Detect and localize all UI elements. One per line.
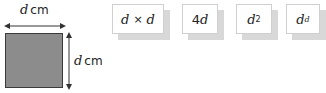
width-label: dcm xyxy=(20,2,49,17)
height-variable: d xyxy=(74,53,82,68)
card-exponent: d xyxy=(305,15,310,24)
card-text: d xyxy=(147,12,155,27)
height-label: dcm xyxy=(74,53,103,68)
card-text: d xyxy=(296,12,304,27)
width-unit: cm xyxy=(30,3,48,17)
card-text: d xyxy=(200,12,208,27)
width-variable: d xyxy=(20,2,28,17)
height-arrow-icon xyxy=(64,32,74,90)
card-text: d xyxy=(247,12,255,27)
card-4d[interactable]: 4d xyxy=(182,4,218,34)
card-d-power-d[interactable]: dd xyxy=(286,4,320,34)
width-arrow-icon xyxy=(4,21,66,31)
card-coefficient: 4 xyxy=(192,12,200,27)
card-face: 4d xyxy=(182,4,218,34)
card-face: d × d xyxy=(112,4,164,34)
card-d-times-d[interactable]: d × d xyxy=(112,4,164,34)
height-unit: cm xyxy=(84,54,102,68)
card-text: d xyxy=(121,12,129,27)
card-face: dd xyxy=(286,4,320,34)
card-face: d2 xyxy=(236,4,272,34)
card-exponent: 2 xyxy=(256,15,261,24)
times-symbol: × xyxy=(133,13,142,26)
square-shape xyxy=(5,33,63,88)
card-d-squared[interactable]: d2 xyxy=(236,4,272,34)
